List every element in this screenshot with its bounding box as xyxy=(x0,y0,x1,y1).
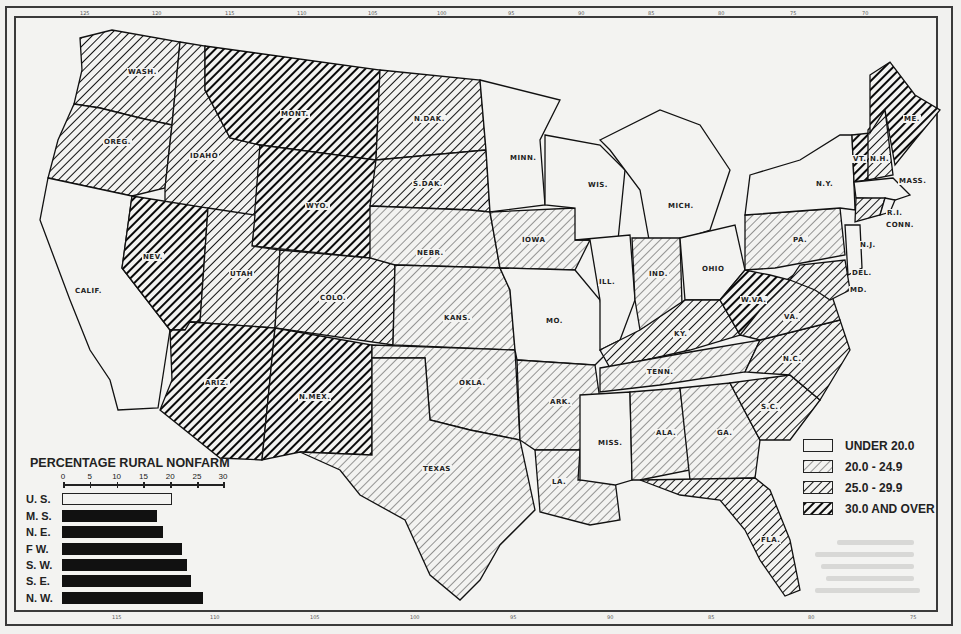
label-ariz: ARIZ. xyxy=(204,379,230,387)
longitude-tick: 115 xyxy=(225,10,235,16)
label-minn: MINN. xyxy=(509,154,537,162)
longitude-tick: 105 xyxy=(368,10,378,16)
label-conn: CONN. xyxy=(885,221,915,229)
label-mont: MONT. xyxy=(280,110,310,118)
longitude-tick: 85 xyxy=(708,614,714,620)
label-nh: N.H. xyxy=(869,155,890,163)
label-wis: WIS. xyxy=(587,181,609,189)
label-nev: NEV. xyxy=(142,253,164,261)
label-vt: VT. xyxy=(852,155,867,163)
label-colo: COLO. xyxy=(319,294,347,302)
axis-tick-label: 30 xyxy=(219,472,228,481)
longitude-tick: 100 xyxy=(410,614,420,620)
legend-item-under-20: UNDER 20.0 xyxy=(803,435,935,456)
axis-tick-label: 25 xyxy=(193,472,202,481)
longitude-tick: 80 xyxy=(808,614,814,620)
label-iowa: IOWA xyxy=(521,236,546,244)
label-texas: TEXAS xyxy=(422,465,452,473)
label-ny: N.Y. xyxy=(815,180,834,188)
bar-label: S. E. xyxy=(26,575,62,587)
label-mich: MICH. xyxy=(667,202,695,210)
legend-label: 25.0 - 29.9 xyxy=(845,481,902,495)
longitude-tick: 110 xyxy=(210,614,220,620)
legend-item-30-over: 30.0 AND OVER xyxy=(803,498,935,519)
legend-item-20-24: 20.0 - 24.9 xyxy=(803,456,935,477)
label-oreg: OREG. xyxy=(103,138,132,146)
longitude-tick: 120 xyxy=(152,10,162,16)
map-legend: UNDER 20.0 20.0 - 24.9 25.0 - 29.9 30.0 … xyxy=(803,435,935,519)
longitude-tick: 75 xyxy=(790,10,796,16)
longitude-tick: 85 xyxy=(648,10,654,16)
bar-ms xyxy=(62,510,157,522)
bar-se xyxy=(62,575,191,587)
bar-nw xyxy=(62,592,203,604)
axis-tick-label: 20 xyxy=(166,472,175,481)
label-miss: MISS. xyxy=(597,439,624,447)
label-wva: W.VA. xyxy=(740,296,767,304)
bar-ne xyxy=(62,526,163,538)
label-nebr: NEBR. xyxy=(416,249,445,257)
longitude-tick: 95 xyxy=(508,10,514,16)
legend-label: UNDER 20.0 xyxy=(845,439,914,453)
longitude-tick: 110 xyxy=(297,10,307,16)
label-nc: N.C. xyxy=(782,355,802,363)
legend-swatch-medium-hatch xyxy=(803,481,833,494)
label-calif: CALIF. xyxy=(74,287,103,295)
label-ndak: N.DAK. xyxy=(413,115,446,123)
legend-swatch-light-hatch xyxy=(803,460,833,473)
bar-label: U. S. xyxy=(26,493,62,505)
label-me: ME. xyxy=(903,115,921,123)
bar-label: M. S. xyxy=(26,510,62,522)
label-tenn: TENN. xyxy=(646,368,674,376)
label-ohio: OHIO xyxy=(701,265,725,273)
longitude-tick: 95 xyxy=(510,614,516,620)
longitude-tick: 115 xyxy=(112,614,122,620)
legend-label: 20.0 - 24.9 xyxy=(845,460,902,474)
state-nebr xyxy=(370,206,500,268)
axis-tick-label: 10 xyxy=(112,472,121,481)
label-idaho: IDAHO xyxy=(189,152,219,160)
label-wyo: WYO. xyxy=(305,202,330,210)
label-wash: WASH. xyxy=(127,68,158,76)
longitude-tick: 75 xyxy=(910,614,916,620)
longitude-tick: 100 xyxy=(437,10,447,16)
label-ga: GA. xyxy=(716,429,733,437)
label-ri: R.I. xyxy=(886,209,903,217)
legend-label: 30.0 AND OVER xyxy=(845,502,935,516)
state-ariz xyxy=(160,322,275,460)
label-la: LA. xyxy=(551,478,567,486)
state-kans xyxy=(393,265,515,350)
bar-chart-axis: 0 5 10 15 20 25 30 xyxy=(63,472,224,486)
bar-row-fw: F W. xyxy=(26,542,182,556)
legend-swatch-blank xyxy=(803,439,833,452)
rural-nonfarm-bar-chart: PERCENTAGE RURAL NONFARM 0 5 10 15 20 25… xyxy=(26,456,230,470)
longitude-tick: 125 xyxy=(80,10,90,16)
bar-us xyxy=(62,493,172,505)
legend-swatch-dark-hatch xyxy=(803,502,833,515)
label-kans: KANS. xyxy=(443,314,472,322)
axis-tick-label: 5 xyxy=(88,472,92,481)
label-va: VA. xyxy=(783,313,800,321)
bar-chart-title: PERCENTAGE RURAL NONFARM xyxy=(30,456,230,470)
label-nj: N.J. xyxy=(859,241,877,249)
label-nmex: N.MEX. xyxy=(298,393,331,401)
longitude-tick: 105 xyxy=(310,614,320,620)
label-ky: KY. xyxy=(673,330,689,338)
state-nj xyxy=(845,225,862,275)
label-sdak: S.DAK. xyxy=(412,180,444,188)
state-ny xyxy=(745,135,855,215)
label-fla: FLA. xyxy=(760,536,781,544)
label-ark: ARK. xyxy=(549,398,572,406)
axis-tick-label: 15 xyxy=(139,472,148,481)
label-md: MD. xyxy=(849,286,868,294)
label-sc: S.C. xyxy=(760,403,780,411)
longitude-tick: 70 xyxy=(862,10,868,16)
label-ind: IND. xyxy=(648,270,669,278)
label-ala: ALA. xyxy=(655,429,677,437)
longitude-tick: 90 xyxy=(578,10,584,16)
bar-fw xyxy=(62,543,182,555)
label-ill: ILL. xyxy=(598,278,616,286)
bar-row-nw: N. W. xyxy=(26,591,203,605)
bar-row-sw: S. W. xyxy=(26,558,187,572)
label-pa: PA. xyxy=(792,236,808,244)
